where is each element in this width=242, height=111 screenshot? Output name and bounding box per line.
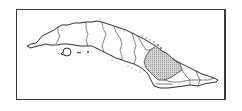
cuba-locator-map (0, 0, 242, 111)
cuba-main-island (27, 21, 218, 88)
isla-de-la-juventud (63, 48, 71, 56)
